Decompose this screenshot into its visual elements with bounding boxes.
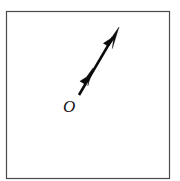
figure-border-rect [7,12,170,179]
vector-diagram-svg: O [0,0,180,181]
origin-label: O [63,97,75,116]
figure-container: O [0,0,180,181]
